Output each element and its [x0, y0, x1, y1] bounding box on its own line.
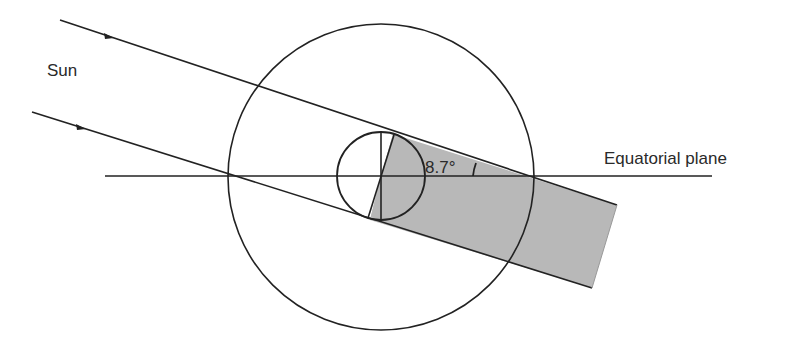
- arrow-icon: [76, 124, 86, 130]
- sun-label: Sun: [47, 62, 77, 79]
- diagram-canvas: [0, 0, 796, 348]
- angle-label: 8.7°: [425, 159, 455, 176]
- equatorial-plane-label: Equatorial plane: [604, 150, 727, 167]
- arrow-icon: [104, 33, 114, 39]
- sun-ray-upper: [60, 20, 617, 205]
